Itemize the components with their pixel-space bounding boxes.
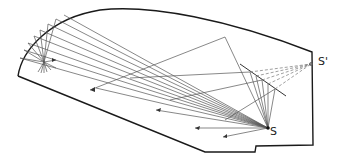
- reflected-rays: [20, 15, 275, 137]
- image-source-lines: [250, 64, 311, 89]
- room-outline: [18, 9, 313, 152]
- source-label: S: [270, 126, 277, 137]
- image-source-label: S': [318, 56, 328, 67]
